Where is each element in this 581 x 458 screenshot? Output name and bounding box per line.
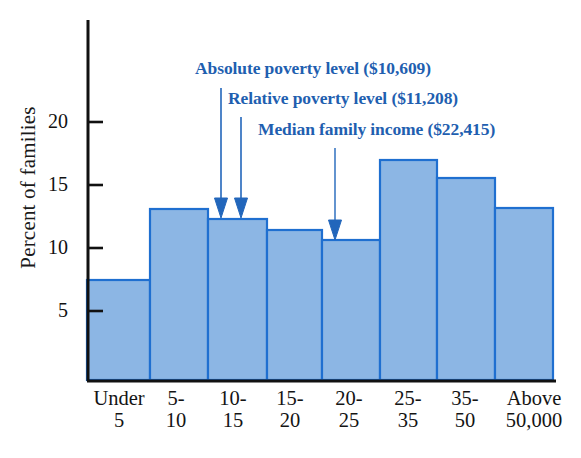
x-label-line2: 50,000 [487, 410, 581, 432]
x-label-25-35: 25- 35 [374, 388, 442, 431]
y-tick-label-20: 20 [28, 110, 68, 133]
x-label-15-20: 15- 20 [256, 388, 324, 431]
x-label-20-25: 20- 25 [315, 388, 383, 431]
x-label-line2: 20 [256, 410, 324, 432]
x-label-line1: 5- [167, 387, 184, 409]
bar-15-20 [267, 230, 322, 380]
bar-5-10 [150, 209, 208, 380]
histogram-chart: Percent of families 20 15 10 5 Absolute … [0, 0, 581, 458]
bar-series [87, 160, 553, 380]
bar-above-50000 [495, 208, 553, 380]
y-tick-label-15: 15 [28, 173, 68, 196]
annotation-median-income: Median family income ($22,415) [258, 119, 495, 140]
arrow-head-relative [235, 198, 248, 218]
x-label-line1: Under [93, 387, 144, 409]
bar-20-25 [322, 240, 380, 380]
annotation-arrows [215, 88, 342, 240]
x-label-line1: 20- [335, 387, 362, 409]
y-tick-label-10: 10 [28, 236, 68, 259]
annotation-relative-poverty: Relative poverty level ($11,208) [228, 88, 458, 109]
x-label-line1: 15- [276, 387, 303, 409]
arrow-head-median [329, 220, 342, 240]
bar-10-15 [208, 219, 267, 380]
annotation-absolute-poverty: Absolute poverty level ($10,609) [195, 58, 431, 79]
x-label-line2: 35 [374, 410, 442, 432]
bar-35-50 [437, 178, 495, 380]
x-label-above-50000: Above 50,000 [487, 388, 581, 431]
x-label-line1: Above [507, 387, 562, 409]
arrow-head-absolute [215, 198, 228, 218]
x-label-line1: 35- [451, 387, 478, 409]
x-label-line1: 10- [219, 387, 246, 409]
x-label-line1: 25- [394, 387, 421, 409]
x-label-line2: 25 [315, 410, 383, 432]
bar-under-5 [87, 280, 150, 380]
y-tick-label-5: 5 [28, 299, 68, 322]
bar-25-35 [380, 160, 437, 380]
